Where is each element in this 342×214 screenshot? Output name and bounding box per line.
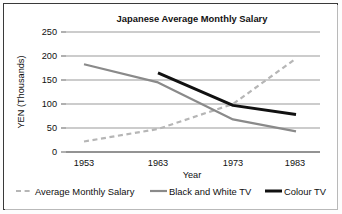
x-tick-label-1953: 1953 xyxy=(74,158,94,168)
legend-label-black-and-white-tv: Black and White TV xyxy=(169,186,252,197)
legend-label-average-monthly-salary: Average Monthly Salary xyxy=(35,186,135,197)
y-tick-label-250: 250 xyxy=(42,27,57,37)
y-tick-label-50: 50 xyxy=(47,123,57,133)
y-axis-title: YEN (Thousands) xyxy=(16,55,26,128)
legend-label-colour-tv: Colour TV xyxy=(284,186,327,197)
x-tick-label-1973: 1973 xyxy=(223,158,243,168)
chart-title: Japanese Average Monthly Salary xyxy=(117,13,269,24)
x-tick-label-1983: 1983 xyxy=(285,158,305,168)
y-tick-marks xyxy=(61,32,66,152)
series-line-black-and-white-tv xyxy=(84,64,296,131)
line-chart: Japanese Average Monthly Salary 250 200 … xyxy=(0,0,342,214)
x-axis-title: Year xyxy=(183,170,202,180)
y-tick-label-200: 200 xyxy=(42,51,57,61)
y-tick-label-150: 150 xyxy=(42,75,57,85)
y-tick-label-100: 100 xyxy=(42,99,57,109)
chart-figure: Japanese Average Monthly Salary 250 200 … xyxy=(0,0,342,214)
x-tick-label-1963: 1963 xyxy=(148,158,168,168)
y-tick-label-0: 0 xyxy=(52,147,57,157)
chart-legend: Average Monthly Salary Black and White T… xyxy=(16,186,327,197)
